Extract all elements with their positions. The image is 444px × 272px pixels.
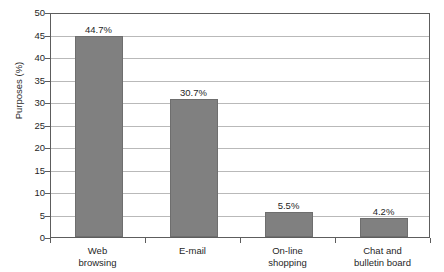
bar — [75, 36, 123, 237]
y-axis-tick-label: 15 — [19, 166, 45, 176]
y-axis-tick-label: 10 — [19, 188, 45, 198]
bar-value-label: 30.7% — [154, 88, 234, 98]
x-axis-category-label-line: browsing — [38, 257, 158, 269]
bar — [265, 212, 313, 237]
y-axis-tick-label: 50 — [19, 8, 45, 18]
bar-value-label: 5.5% — [249, 201, 329, 211]
x-axis-category-label-line: Chat and — [323, 245, 443, 257]
x-axis-tick-mark — [335, 238, 336, 243]
x-axis-tick-mark — [240, 238, 241, 243]
gridline — [51, 13, 429, 14]
bar-value-label: 44.7% — [59, 25, 139, 35]
bar-value-label: 4.2% — [344, 207, 424, 217]
x-axis-category-label-line: bulletin board — [323, 257, 443, 269]
plot-area: 44.7%30.7%5.5%4.2% — [50, 13, 430, 238]
bar-chart: Purposes (%) 44.7%30.7%5.5%4.2% 50454035… — [0, 0, 444, 272]
bar — [170, 99, 218, 237]
y-axis-title: Purposes (%) — [13, 36, 24, 146]
x-axis-category-label: Chat andbulletin board — [323, 245, 443, 269]
bar — [360, 218, 408, 237]
x-axis-tick-mark — [50, 238, 51, 243]
x-axis-tick-mark — [430, 238, 431, 243]
clipped-chart-title — [60, 0, 230, 8]
y-axis-tick-label: 0 — [19, 233, 45, 243]
x-axis-tick-mark — [145, 238, 146, 243]
y-axis-tick-label: 5 — [19, 211, 45, 221]
